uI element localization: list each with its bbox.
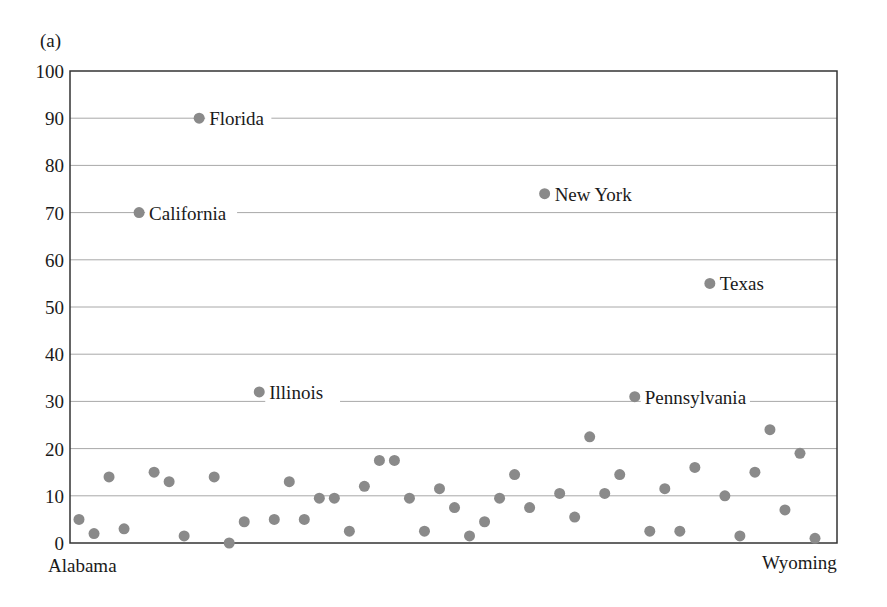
annotation-florida: Florida: [209, 108, 264, 129]
data-point-wyoming: [810, 533, 821, 544]
data-point-utah: [719, 490, 730, 501]
data-point-vermont: [734, 530, 745, 541]
data-point-colorado: [149, 467, 160, 478]
data-point-florida: [194, 113, 205, 124]
data-point-virginia: [749, 467, 760, 478]
annotation-illinois: Illinois: [269, 382, 323, 403]
data-point-north-carolina: [554, 488, 565, 499]
data-point-new-york: [539, 188, 550, 199]
y-tick-label: 80: [45, 155, 64, 176]
point-annotations: CaliforniaFloridaIllinoisNew YorkPennsyl…: [145, 105, 765, 407]
data-point-oklahoma: [599, 488, 610, 499]
gridlines: [70, 118, 837, 496]
data-point-texas: [704, 278, 715, 289]
data-point-new-jersey: [509, 469, 520, 480]
data-point-north-dakota: [569, 512, 580, 523]
data-point-wisconsin: [794, 448, 805, 459]
data-point-minnesota: [404, 493, 415, 504]
data-point-west-virginia: [779, 504, 790, 515]
data-point-south-carolina: [659, 483, 670, 494]
data-point-kansas: [299, 514, 310, 525]
data-point-maine: [344, 526, 355, 537]
data-point-washington: [764, 424, 775, 435]
y-tick-label: 10: [45, 486, 64, 507]
data-point-arkansas: [119, 523, 130, 534]
data-point-alaska: [89, 528, 100, 539]
y-axis-ticks: 0102030405060708090100: [36, 61, 65, 554]
x-label-last: Wyoming: [762, 552, 837, 573]
annotation-pennsylvania: Pennsylvania: [645, 387, 747, 408]
data-point-louisiana: [329, 493, 340, 504]
y-tick-label: 70: [45, 203, 64, 224]
data-point-ohio: [584, 431, 595, 442]
scatter-chart: 0102030405060708090100 CaliforniaFlorida…: [0, 0, 887, 607]
data-point-indiana: [269, 514, 280, 525]
data-point-new-mexico: [524, 502, 535, 513]
data-point-georgia: [209, 471, 220, 482]
data-point-illinois: [254, 386, 265, 397]
data-point-montana: [449, 502, 460, 513]
data-point-new-hampshire: [494, 493, 505, 504]
data-point-hawaii: [224, 538, 235, 549]
data-point-michigan: [389, 455, 400, 466]
data-points: [74, 113, 821, 549]
data-point-tennessee: [689, 462, 700, 473]
data-point-kentucky: [314, 493, 325, 504]
data-point-missouri: [434, 483, 445, 494]
data-point-california: [134, 207, 145, 218]
data-point-nevada: [479, 516, 490, 527]
x-label-first: Alabama: [48, 555, 117, 576]
y-tick-label: 90: [45, 108, 64, 129]
annotation-texas: Texas: [720, 273, 764, 294]
data-point-iowa: [284, 476, 295, 487]
data-point-south-dakota: [674, 526, 685, 537]
annotation-new-york: New York: [555, 184, 633, 205]
data-point-connecticut: [164, 476, 175, 487]
data-point-massachusetts: [374, 455, 385, 466]
data-point-arizona: [104, 471, 115, 482]
data-point-alabama: [74, 514, 85, 525]
y-tick-label: 0: [55, 533, 65, 554]
annotation-california: California: [149, 203, 227, 224]
data-point-nebraska: [464, 530, 475, 541]
data-point-delaware: [179, 530, 190, 541]
y-tick-label: 20: [45, 439, 64, 460]
data-point-oregon: [614, 469, 625, 480]
data-point-pennsylvania: [629, 391, 640, 402]
y-tick-label: 50: [45, 297, 64, 318]
data-point-idaho: [239, 516, 250, 527]
data-point-mississippi: [419, 526, 430, 537]
y-tick-label: 60: [45, 250, 64, 271]
y-tick-label: 40: [45, 344, 64, 365]
y-tick-label: 100: [36, 61, 65, 82]
y-tick-label: 30: [45, 391, 64, 412]
data-point-rhode-island: [644, 526, 655, 537]
data-point-maryland: [359, 481, 370, 492]
